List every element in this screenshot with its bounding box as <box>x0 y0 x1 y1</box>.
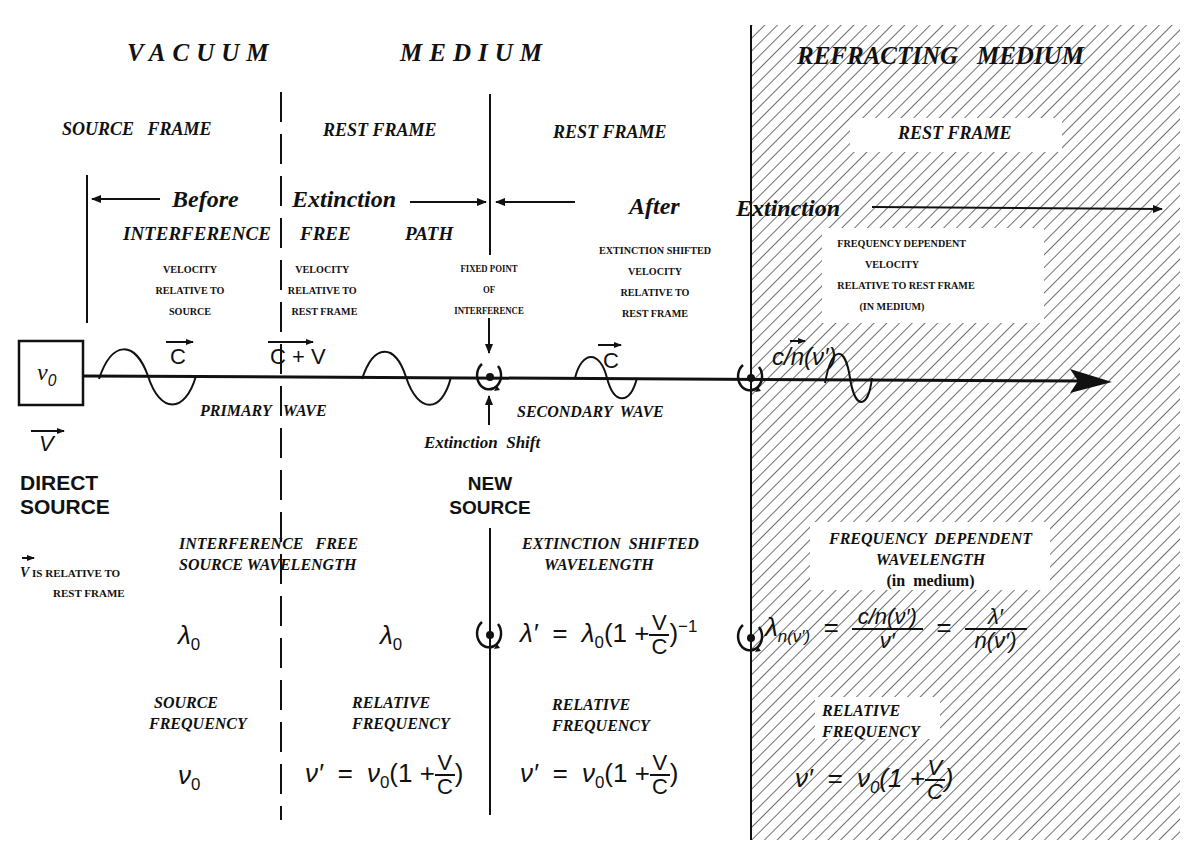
caption-frequency-dependent-velocity: FREQUENCY DEPENDENT VELOCITY RELATIVE TO… <box>830 233 1014 317</box>
eq-mid: (1 + <box>879 763 925 793</box>
label-relative-frequency-1: RELATIVE FREQUENCY <box>352 692 450 734</box>
caption-line: EXTINCTION SHIFTED <box>586 240 724 261</box>
label-line: RELATIVE <box>822 700 920 721</box>
caption-line: RELATIVE TO <box>586 282 724 303</box>
label-line: FREQUENCY <box>552 715 650 736</box>
label-direct-source: DIRECT SOURCE <box>20 471 110 519</box>
label-path: PATH <box>405 224 453 243</box>
label-line: WAVELENGTH <box>522 554 699 575</box>
caption-line: VELOCITY <box>144 259 236 280</box>
nu-prime-equation-1: ν′ = ν0(1 +VC) <box>305 752 463 798</box>
label-source-frequency: SOURCE FREQUENCY <box>149 692 247 734</box>
subscript: 0 <box>870 778 879 797</box>
note-text: IS RELATIVE TO <box>32 567 120 579</box>
label-extinction-2: Extinction <box>736 196 840 220</box>
frame-source: SOURCE FRAME <box>62 120 212 138</box>
numerator: V <box>650 752 670 774</box>
numerator: V <box>925 757 945 779</box>
label-relative-frequency-3: RELATIVE FREQUENCY <box>822 700 920 742</box>
subscript: 0 <box>191 635 200 654</box>
label-line: SOURCE <box>149 692 247 713</box>
label-extinction-shift: Extinction Shift <box>424 434 540 451</box>
label-after: After <box>629 194 680 218</box>
caption-velocity-relative-rest: VELOCITY RELATIVE TO REST FRAME <box>288 259 376 322</box>
numerator: V <box>649 612 669 634</box>
numerator: λ′ <box>965 606 1027 628</box>
lambda-n-equation: λn(ν′) = c/n(ν′)ν′ = λ′n(ν′) <box>765 606 1027 652</box>
label-relative-frequency-2: RELATIVE FREQUENCY <box>552 694 650 736</box>
lambda0-rest: λ0 <box>380 622 402 654</box>
frame-rest-1: REST FRAME <box>323 121 437 139</box>
label-v-vector: V <box>39 433 54 455</box>
label-line: FREQUENCY <box>149 713 247 734</box>
label-line: FREQUENCY <box>822 721 920 742</box>
caption-extinction-shifted-velocity: EXTINCTION SHIFTED VELOCITY RELATIVE TO … <box>586 240 724 324</box>
label-primary-wave: PRIMARY WAVE <box>200 403 327 419</box>
lambda0-source: λ0 <box>178 622 200 654</box>
label-line: (in medium) <box>818 570 1043 591</box>
close-paren: ) <box>945 763 954 793</box>
label-line: FREQUENCY DEPENDENT <box>818 528 1043 549</box>
caption-fixed-point: FIXED POINT OF INTERFERENCE <box>437 259 542 322</box>
label-line: WAVELENGTH <box>818 549 1043 570</box>
subscript: 0 <box>393 635 402 654</box>
equals: = <box>823 612 838 642</box>
caption-line: VELOCITY <box>288 259 376 280</box>
v-relative-note: V IS RELATIVE TO REST FRAME <box>20 563 125 603</box>
label-extinction-1: Extinction <box>292 187 396 211</box>
v-symbol: V <box>20 565 29 580</box>
source-frequency-symbol: ν0 <box>37 360 56 388</box>
eq-mid: (1 + <box>604 758 650 788</box>
denominator: C <box>435 774 455 798</box>
label-line: NEW <box>448 472 532 496</box>
label-line: SOURCE WAVELENGTH <box>179 554 358 575</box>
caption-line: SOURCE <box>144 301 236 322</box>
fraction-1: c/n(ν′)ν′ <box>852 606 923 652</box>
v-over-c: VC <box>650 752 670 798</box>
label-c-plus-v: C + V <box>270 346 326 368</box>
denominator: ν′ <box>852 628 923 652</box>
equals: = <box>936 612 951 642</box>
frame-rest-2: REST FRAME <box>553 123 667 141</box>
close-paren: ) <box>669 618 678 648</box>
caption-line: OF <box>437 280 542 301</box>
label-line: SOURCE <box>448 496 532 520</box>
label-new-source: NEW SOURCE <box>448 472 532 520</box>
lambda-prime-equation: λ′ = λ0(1 +VC)−1 <box>520 612 697 658</box>
v-note-line: REST FRAME <box>20 583 125 603</box>
label-line: RELATIVE <box>552 694 650 715</box>
eq-mid: (1 + <box>389 758 435 788</box>
caption-velocity-relative-source: VELOCITY RELATIVE TO SOURCE <box>144 259 236 322</box>
numerator: V <box>435 752 455 774</box>
caption-line: REST FRAME <box>288 301 376 322</box>
exponent: −1 <box>678 617 697 636</box>
caption-line: (IN MEDIUM) <box>830 296 1014 317</box>
denominator: C <box>649 634 669 658</box>
caption-line: REST FRAME <box>586 303 724 324</box>
label-line: EXTINCTION SHIFTED <box>522 533 699 554</box>
label-interference: INTERFERENCE <box>123 224 271 243</box>
v-over-c: VC <box>435 752 455 798</box>
fraction-2: λ′n(ν′) <box>965 606 1027 652</box>
subscript: 0 <box>595 773 604 792</box>
label-secondary-wave: SECONDARY WAVE <box>517 404 664 420</box>
close-paren: ) <box>670 758 679 788</box>
lambda-symbol: λ <box>178 620 191 650</box>
caption-line: RELATIVE TO REST FRAME <box>830 275 1014 296</box>
subscript: 0 <box>595 633 604 652</box>
caption-line: INTERFERENCE <box>437 301 542 322</box>
caption-line: RELATIVE TO <box>144 280 236 301</box>
denominator: n(ν′) <box>965 628 1027 652</box>
v-note-line: V IS RELATIVE TO <box>20 563 125 583</box>
heading-vacuum: VACUUM <box>127 40 276 65</box>
lambda-symbol: λ <box>380 620 393 650</box>
label-line: DIRECT <box>20 471 110 495</box>
caption-line: VELOCITY <box>586 261 724 282</box>
caption-line: VELOCITY <box>830 254 1014 275</box>
nu-symbol: ν <box>178 760 191 790</box>
label-c-1: C <box>170 346 186 368</box>
label-line: FREQUENCY <box>352 713 450 734</box>
label-before: Before <box>172 187 239 211</box>
lambda-symbol: λ <box>765 612 778 642</box>
label-line: SOURCE <box>20 495 110 519</box>
